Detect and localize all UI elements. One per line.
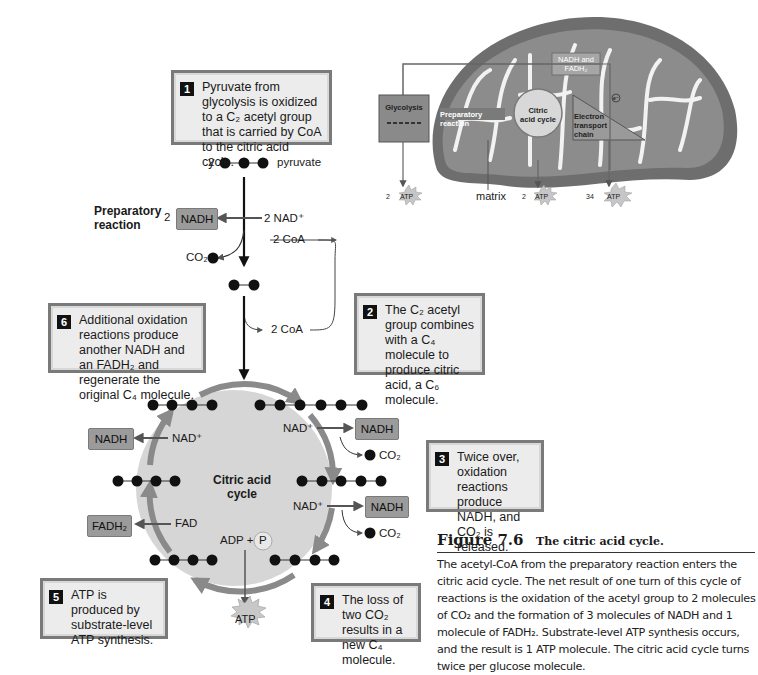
step-2-box: 2 The C₂ acetyl group combines with a C₄… xyxy=(354,293,485,375)
step-4-text: The loss of two CO₂ results in a new C₄ … xyxy=(342,593,403,667)
prep-co2-label: CO₂ xyxy=(186,251,208,263)
nadh-box-left: NADH xyxy=(88,428,134,450)
step-5-text: ATP is produced by substrate-level ATP s… xyxy=(71,588,153,647)
fadh2-box: FADH₂ xyxy=(87,515,132,537)
coa-out-label: 2 CoA xyxy=(271,323,303,335)
step-4-box: 4 The loss of two CO₂ results in a new C… xyxy=(311,583,421,642)
co2-label-1: CO₂ xyxy=(379,449,401,461)
preparatory-reaction-label: Preparatory reaction xyxy=(94,204,164,232)
step-5-box: 5 ATP is produced by substrate-level ATP… xyxy=(40,578,168,639)
preparatory-pathway xyxy=(218,158,336,379)
figure-title: Figure 7.6 The citric acid cycle. xyxy=(437,531,755,553)
step-2-number: 2 xyxy=(363,305,377,319)
nadh-box-right: NADH xyxy=(365,496,409,518)
figure-title-text: The citric acid cycle. xyxy=(536,535,664,548)
nad-label-left: NAD⁺ xyxy=(172,431,202,445)
mito-nadh-fadh-label: NADH and FADH₂ xyxy=(553,55,599,73)
atp-product-label: ATP xyxy=(235,613,256,625)
figure-number: Figure 7.6 xyxy=(437,531,524,549)
atp-etc-count: 34 xyxy=(586,193,594,200)
atp-glycolysis-count: 2 xyxy=(386,193,390,200)
coa-in-label: 2 CoA xyxy=(273,233,305,245)
mito-citric-label: Citric acid cycle xyxy=(520,106,556,124)
nadh-box-top-right: NADH xyxy=(355,418,399,440)
phosphate-label: P xyxy=(259,534,267,546)
atp-citric-count: 2 xyxy=(522,193,526,200)
atp-etc-label: ATP xyxy=(607,193,620,200)
figure-caption: The acetyl-CoA from the preparatory reac… xyxy=(437,556,757,675)
step-1-number: 1 xyxy=(180,82,194,96)
co2-label-2: CO₂ xyxy=(379,527,401,539)
step-3-number: 3 xyxy=(435,452,449,466)
step-1-box: 1 Pyruvate from glycolysis is oxidized t… xyxy=(171,70,332,145)
pyruvate-label: pyruvate xyxy=(277,156,321,168)
step-4-number: 4 xyxy=(320,595,334,609)
atp-glycolysis-label: ATP xyxy=(400,193,413,200)
prep-nad-label: 2 NAD⁺ xyxy=(264,211,304,225)
nadh-count: 2 xyxy=(164,211,170,223)
nad-label-right: NAD⁺ xyxy=(293,499,323,513)
step-6-text: Additional oxidation reactions produce a… xyxy=(79,313,194,402)
step-6-number: 6 xyxy=(57,315,71,329)
mito-etc-label: Electron transport chain xyxy=(574,112,612,139)
matrix-label: matrix xyxy=(476,190,506,202)
mito-preparatory-label: Preparatory reaction xyxy=(440,110,505,128)
step-5-number: 5 xyxy=(49,590,63,604)
electron-icon: e⁻ xyxy=(611,94,621,103)
mitochondrion xyxy=(379,17,737,207)
step-3-box: 3 Twice over, oxidation reactions produc… xyxy=(426,440,544,512)
citric-acid-cycle-label: Citric acid cycle xyxy=(212,473,272,501)
fad-label: FAD xyxy=(175,517,197,529)
mito-glycolysis-label: Glycolysis xyxy=(379,103,429,112)
pyruvate-count: 2 xyxy=(208,156,214,168)
nad-label-top-right: NAD⁺ xyxy=(283,421,313,435)
adp-label: ADP + xyxy=(220,534,253,546)
step-6-box: 6 Additional oxidation reactions produce… xyxy=(48,303,206,373)
atp-citric-label: ATP xyxy=(535,193,548,200)
prep-nadh-box: NADH xyxy=(176,208,218,230)
